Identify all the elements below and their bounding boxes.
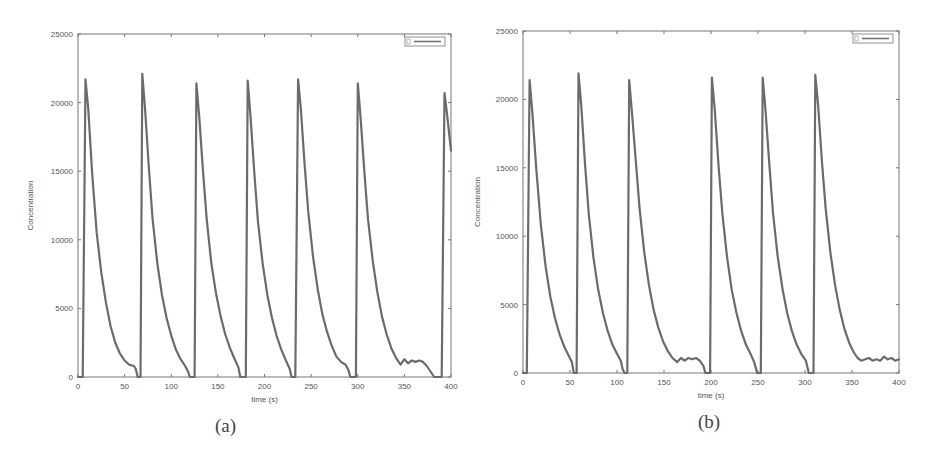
y-tick-label: 25000 [496,27,519,36]
x-tick-label: 400 [892,378,906,387]
x-tick-label: 100 [610,378,624,387]
x-tick-label: 350 [398,382,412,391]
y-tick-label: 20000 [51,99,74,108]
chart-panel-b: 0501001502002503003504000500010000150002… [468,0,937,459]
x-tick-label: 50 [120,382,129,391]
x-tick-label: 100 [165,382,179,391]
concentration-line [78,74,451,377]
y-tick-label: 0 [69,373,74,382]
chart-panel-a: 0501001502002503003504000500010000150002… [0,0,468,459]
plot-frame [78,34,451,377]
y-tick-label: 15000 [496,164,519,173]
x-tick-label: 400 [444,382,458,391]
y-tick-label: 15000 [51,167,74,176]
x-tick-label: 200 [704,378,718,387]
y-axis-title: Concentration [473,177,482,227]
x-tick-label: 300 [798,378,812,387]
y-tick-label: 25000 [51,30,74,39]
caption-b: (b) [698,411,720,433]
x-axis-title: time (s) [698,391,725,400]
x-tick-label: 250 [751,378,765,387]
y-tick-label: 5000 [55,304,73,313]
x-tick-label: 300 [351,382,365,391]
x-tick-label: 200 [258,382,272,391]
x-tick-label: 350 [845,378,859,387]
x-axis-title: time (s) [251,395,278,404]
x-tick-label: 150 [657,378,671,387]
y-tick-label: 0 [514,369,519,378]
x-tick-label: 150 [211,382,225,391]
caption-a: (a) [215,415,236,437]
concentration-line [523,73,899,373]
line-chart-b: 0501001502002503003504000500010000150002… [468,0,937,459]
x-tick-label: 50 [566,378,575,387]
y-tick-label: 10000 [51,236,74,245]
y-tick-label: 10000 [496,232,519,241]
x-tick-label: 0 [521,378,526,387]
y-tick-label: 20000 [496,95,519,104]
y-tick-label: 5000 [500,301,518,310]
line-chart-a: 0501001502002503003504000500010000150002… [0,0,468,459]
y-axis-title: Concentration [26,181,35,231]
x-tick-label: 250 [304,382,318,391]
x-tick-label: 0 [76,382,81,391]
